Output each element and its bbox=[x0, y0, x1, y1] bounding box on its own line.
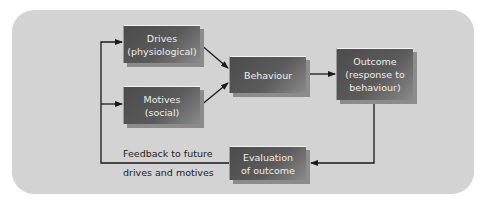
node-motives: Motives (social) bbox=[123, 86, 200, 124]
node-motives-subtitle: (social) bbox=[145, 106, 180, 119]
node-outcome-subtitle-1: (response to bbox=[345, 68, 404, 81]
node-behaviour: Behaviour bbox=[229, 56, 306, 93]
node-drives: Drives (physiological) bbox=[123, 25, 200, 63]
arrow-outcome-to-evaluation bbox=[311, 104, 374, 163]
node-evaluation-title: Evaluation bbox=[243, 151, 293, 164]
node-behaviour-title: Behaviour bbox=[244, 69, 292, 82]
node-outcome-subtitle-2: behaviour) bbox=[349, 81, 400, 94]
node-drives-title: Drives bbox=[147, 32, 177, 45]
feedback-label-line2: drives and motives bbox=[123, 167, 214, 178]
node-evaluation-subtitle: of outcome bbox=[241, 164, 295, 177]
arrow-drives-to-behaviour bbox=[200, 44, 228, 68]
node-evaluation: Evaluation of outcome bbox=[229, 146, 306, 180]
feedback-label-line1: Feedback to future bbox=[123, 148, 212, 159]
arrow-motives-to-behaviour bbox=[200, 83, 228, 106]
node-outcome-title: Outcome bbox=[353, 55, 396, 68]
node-outcome: Outcome (response to behaviour) bbox=[336, 48, 413, 100]
node-motives-title: Motives bbox=[144, 93, 181, 106]
node-drives-subtitle: (physiological) bbox=[127, 45, 196, 58]
